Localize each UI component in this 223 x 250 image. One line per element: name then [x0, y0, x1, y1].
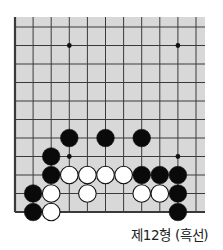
black-stone	[133, 129, 151, 147]
black-stone	[169, 203, 187, 221]
black-stone	[24, 185, 42, 203]
white-stone	[133, 185, 151, 203]
black-stone	[61, 129, 79, 147]
white-stone	[42, 185, 60, 203]
white-stone	[61, 166, 79, 184]
white-stone	[79, 166, 97, 184]
white-stone	[97, 166, 115, 184]
star-point	[67, 43, 72, 48]
white-stone	[79, 185, 97, 203]
black-stone	[133, 166, 151, 184]
go-board	[0, 0, 223, 222]
white-stone	[42, 203, 60, 221]
black-stone	[169, 166, 187, 184]
star-point	[176, 43, 181, 48]
black-stone	[42, 166, 60, 184]
star-point	[176, 154, 181, 159]
go-board-grid	[0, 0, 223, 222]
black-stone	[42, 148, 60, 166]
black-stone	[169, 185, 187, 203]
black-stone	[97, 129, 115, 147]
star-point	[67, 154, 72, 159]
problem-caption: 제12형 (흑선)	[131, 224, 208, 244]
black-stone	[151, 166, 169, 184]
white-stone	[115, 166, 133, 184]
black-stone	[24, 203, 42, 221]
white-stone	[151, 185, 169, 203]
